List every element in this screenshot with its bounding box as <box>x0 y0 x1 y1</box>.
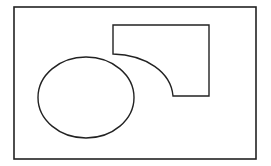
outer-frame <box>14 7 256 159</box>
rectangle-with-concave-curve <box>113 25 209 96</box>
diagram-canvas <box>0 0 271 166</box>
ellipse-shape <box>38 57 134 138</box>
